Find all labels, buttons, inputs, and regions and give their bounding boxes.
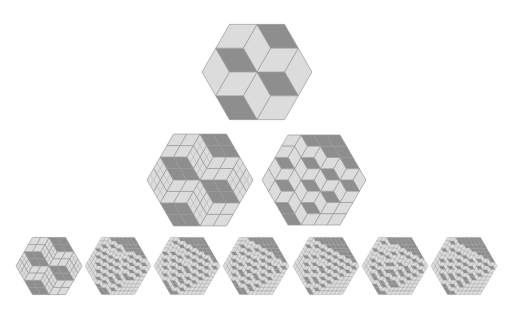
lozenge-tilings-figure — [0, 0, 512, 313]
